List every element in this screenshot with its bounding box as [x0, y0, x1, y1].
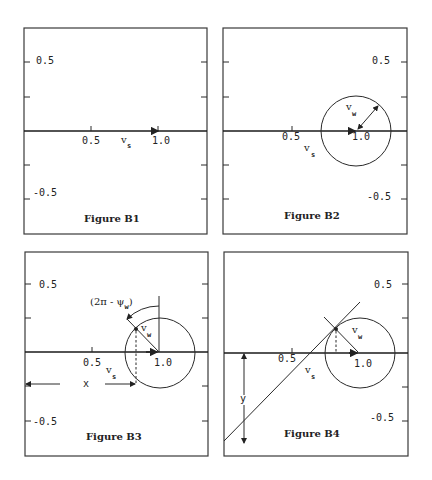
y-distance-label: y	[240, 393, 246, 404]
figure-caption: Figure B3	[86, 431, 142, 442]
x-tick-label: 1.0	[352, 131, 370, 142]
figure-caption: Figure B1	[84, 213, 140, 224]
y-tick-label: 0.5	[374, 279, 392, 290]
x-tick-label: 0.5	[83, 357, 101, 368]
vw-symbol: v	[140, 322, 147, 333]
panel-b1: 0.5 -0.5 0.5 1.0 v s Figure B1	[24, 28, 207, 234]
panel-b4: 0.5 -0.5 0.5 1.0 v s v w y Figure B4	[224, 252, 408, 456]
vs-subscript: s	[311, 373, 315, 381]
vw-subscript: w	[352, 110, 357, 118]
panel-b3: 0.5 -0.5 0.5 1.0 v s v w (2π - ψw) x Fig…	[25, 252, 208, 456]
heading-point	[134, 327, 138, 331]
vs-symbol: v	[303, 142, 310, 153]
radius-arrow	[358, 106, 378, 129]
y-tick-label: 0.5	[372, 55, 390, 66]
vw-symbol: v	[345, 101, 352, 112]
vs-symbol: v	[120, 134, 127, 145]
x-tick-label: 0.5	[278, 353, 296, 364]
vs-symbol: v	[105, 364, 112, 375]
y-tick-label: 0.5	[39, 279, 57, 290]
panel-b2: 0.5 -0.5 0.5 1.0 v s v w Figure B2	[223, 28, 407, 234]
y-tick-label: -0.5	[367, 191, 391, 202]
figure-caption: Figure B2	[284, 210, 340, 221]
vs-subscript: s	[311, 151, 315, 159]
vw-subscript: w	[358, 333, 363, 341]
y-tick-label: -0.5	[33, 187, 57, 198]
x-distance-label: x	[83, 378, 89, 389]
heading-point	[334, 327, 338, 331]
x-tick-label: 1.0	[152, 135, 170, 146]
x-tick-label: 0.5	[82, 135, 100, 146]
y-tick-label: -0.5	[370, 412, 394, 423]
figure-caption: Figure B4	[284, 428, 340, 439]
angle-label: (2π - ψw)	[90, 296, 133, 311]
vw-symbol: v	[351, 324, 358, 335]
vw-subscript: w	[147, 331, 152, 339]
y-tick-label: -0.5	[33, 416, 57, 427]
y-tick-label: 0.5	[36, 55, 54, 66]
x-tick-label: 1.0	[154, 357, 172, 368]
figure-canvas: 0.5 -0.5 0.5 1.0 v s Figure B1 0.5 -0.5 …	[0, 0, 432, 480]
vs-subscript: s	[127, 142, 131, 150]
x-tick-label: 0.5	[282, 131, 300, 142]
vs-symbol: v	[304, 364, 311, 375]
angle-arc	[127, 306, 159, 319]
x-tick-label: 1.0	[354, 358, 372, 369]
vs-subscript: s	[112, 373, 116, 381]
